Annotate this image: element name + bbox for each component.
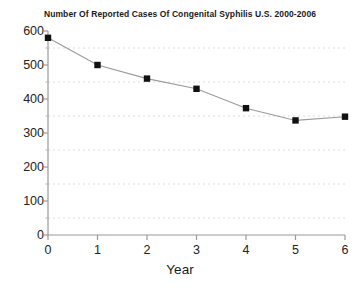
y-tick-label-0: 0 xyxy=(4,228,44,242)
data-point-2 xyxy=(144,75,150,81)
data-point-3 xyxy=(193,86,199,92)
plot-area xyxy=(48,31,345,235)
chart-title: Number Of Reported Cases Of Congenital S… xyxy=(0,9,360,19)
data-point-markers xyxy=(45,35,348,124)
y-axis xyxy=(44,31,48,235)
x-tick-label-0: 0 xyxy=(36,243,60,257)
data-point-6 xyxy=(342,113,348,119)
gridlines xyxy=(48,48,345,218)
x-tick-label-5: 5 xyxy=(284,243,308,257)
data-point-0 xyxy=(45,35,51,41)
x-tick-label-1: 1 xyxy=(86,243,110,257)
x-tick-label-2: 2 xyxy=(135,243,159,257)
data-point-5 xyxy=(292,117,298,123)
x-tick-label-4: 4 xyxy=(234,243,258,257)
y-tick-label-400: 400 xyxy=(4,92,44,106)
chart-container: Number Of Reported Cases Of Congenital S… xyxy=(0,0,360,294)
y-tick-label-200: 200 xyxy=(4,160,44,174)
data-point-1 xyxy=(94,62,100,68)
y-tick-label-300: 300 xyxy=(4,126,44,140)
x-axis xyxy=(48,235,345,240)
x-axis-title: Year xyxy=(0,262,360,277)
y-tick-label-600: 600 xyxy=(4,24,44,38)
y-tick-label-100: 100 xyxy=(4,194,44,208)
plot-svg xyxy=(48,31,345,235)
data-series-line xyxy=(48,38,345,121)
data-point-4 xyxy=(243,105,249,111)
x-tick-label-6: 6 xyxy=(333,243,357,257)
y-tick-label-500: 500 xyxy=(4,58,44,72)
x-tick-label-3: 3 xyxy=(185,243,209,257)
